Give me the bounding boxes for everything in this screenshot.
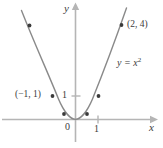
data-point-marker xyxy=(62,112,66,116)
parabola-curve xyxy=(22,8,127,119)
data-point-marker xyxy=(97,94,101,98)
data-point-marker xyxy=(120,23,124,27)
parabola-figure: y x 0 1 1 (−1, 1) (2, 4) y = x2 xyxy=(0,0,163,148)
data-point-marker xyxy=(51,94,55,98)
data-point-marker xyxy=(28,24,32,28)
x-axis-arrowhead xyxy=(150,116,158,123)
y-axis-arrowhead xyxy=(72,3,79,11)
plot-canvas xyxy=(0,0,163,148)
data-point-marker xyxy=(85,112,89,116)
